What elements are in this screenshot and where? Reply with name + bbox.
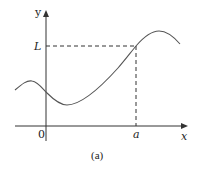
y-axis-arrow-icon <box>43 10 49 17</box>
figure-caption: (a) <box>91 149 104 162</box>
y-axis-label: y <box>34 6 42 19</box>
y-marker-label: L <box>33 40 41 53</box>
origin-label: 0 <box>38 128 45 141</box>
x-marker-label: a <box>133 128 140 141</box>
limit-diagram: y L 0 a x (a) <box>0 0 202 176</box>
x-axis-arrow-icon <box>181 123 188 129</box>
x-axis-label: x <box>181 130 188 143</box>
